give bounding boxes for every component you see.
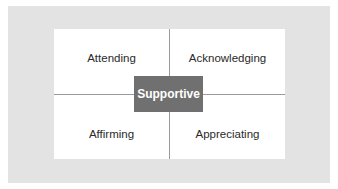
center-box-supportive: Supportive <box>134 76 203 112</box>
quadrant-appreciating: Appreciating <box>170 128 285 140</box>
quadrant-affirming: Affirming <box>54 128 169 140</box>
quadrant-attending: Attending <box>54 52 169 64</box>
quadrant-acknowledging: Acknowledging <box>170 52 285 64</box>
